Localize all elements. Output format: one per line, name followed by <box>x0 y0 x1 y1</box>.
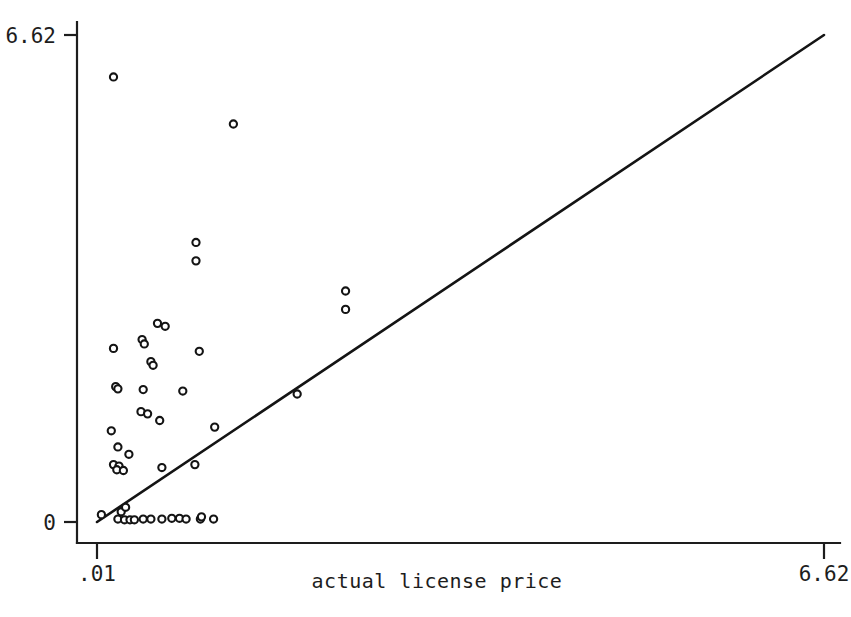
scatter-point <box>211 424 218 431</box>
scatter-point <box>192 239 199 246</box>
scatter-marker-layer <box>98 73 349 523</box>
scatter-point <box>162 323 169 330</box>
scatter-point <box>154 320 161 327</box>
scatter-point <box>98 511 105 518</box>
scatter-point <box>342 306 349 313</box>
scatter-point <box>110 345 117 352</box>
scatter-point <box>156 417 163 424</box>
y-axis-tick-label-bottom: 0 <box>43 511 56 535</box>
scatter-point <box>149 362 156 369</box>
y-axis-tick-label-top: 6.62 <box>5 24 56 48</box>
scatter-point <box>192 257 199 264</box>
scatter-point <box>182 515 189 522</box>
scatter-point <box>210 515 217 522</box>
scatter-point <box>147 515 154 522</box>
scatter-point <box>122 504 129 511</box>
forty-five-degree-reference-line <box>97 35 824 522</box>
scatter-point <box>144 410 151 417</box>
scatter-point <box>158 515 165 522</box>
scatter-point <box>131 516 138 523</box>
scatter-point <box>114 443 121 450</box>
scatter-point <box>196 348 203 355</box>
scatter-point <box>125 451 132 458</box>
scatter-point <box>108 427 115 434</box>
scatter-point <box>179 387 186 394</box>
scatter-point <box>294 390 301 397</box>
scatter-plot-figure: 6.62 0 .01 6.62 actual license price <box>0 0 851 617</box>
scatter-point <box>158 464 165 471</box>
x-axis-tick-label-right: 6.62 <box>799 562 850 586</box>
scatter-point <box>120 467 127 474</box>
scatter-point <box>230 120 237 127</box>
scatter-point <box>342 287 349 294</box>
x-axis-tick-label-left: .01 <box>78 562 116 586</box>
tick-label-group: 6.62 0 .01 6.62 <box>5 24 849 586</box>
scatter-point <box>140 386 147 393</box>
scatter-point <box>140 515 147 522</box>
scatter-point <box>114 385 121 392</box>
scatter-point <box>168 515 175 522</box>
scatter-point <box>198 513 205 520</box>
scatter-point <box>191 461 198 468</box>
reference-line-layer <box>97 35 824 522</box>
plot-canvas: 6.62 0 .01 6.62 actual license price <box>0 0 851 617</box>
x-axis-title: actual license price <box>312 569 563 593</box>
scatter-point <box>141 340 148 347</box>
scatter-point <box>110 73 117 80</box>
